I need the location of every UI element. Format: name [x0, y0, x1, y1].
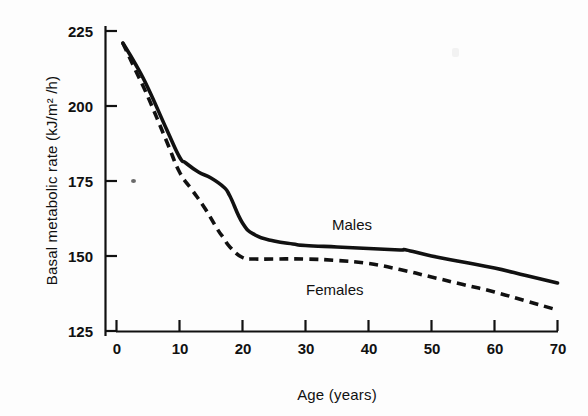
scan-smudge: [452, 48, 459, 57]
chart-page: 225 200 175 150 125 0 10 20 30 40 50 60 …: [0, 0, 588, 416]
x-axis-ticks: [117, 320, 558, 331]
x-tick-label-40: 40: [349, 340, 389, 357]
series-line-males: [123, 43, 558, 283]
x-tick-label-70: 70: [538, 340, 578, 357]
series-annotation-males: Males: [332, 216, 372, 233]
y-tick-label-125: 125: [47, 323, 93, 340]
y-axis-title: Basal metabolic rate (kJ/m² /h): [43, 56, 60, 306]
x-tick-label-0: 0: [97, 340, 137, 357]
x-tick-label-10: 10: [160, 340, 200, 357]
x-tick-label-20: 20: [223, 340, 263, 357]
x-tick-label-30: 30: [286, 340, 326, 357]
series-annotation-females: Females: [306, 281, 364, 298]
x-tick-label-50: 50: [412, 340, 452, 357]
x-axis-title: Age (years): [116, 386, 558, 403]
x-tick-label-60: 60: [475, 340, 515, 357]
scan-speck: [131, 179, 136, 183]
series-line-females: [123, 43, 558, 310]
basal-metabolic-rate-chart: 225 200 175 150 125 0 10 20 30 40 50 60 …: [0, 0, 588, 416]
y-tick-label-225: 225: [47, 23, 93, 40]
y-axis-ticks: [105, 31, 117, 331]
